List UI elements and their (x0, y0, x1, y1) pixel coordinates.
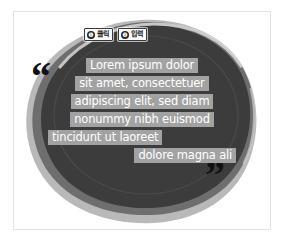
step-number-icon-1: ❶ (87, 31, 95, 39)
callout-badge-1[interactable]: ❶ 클릭 (84, 28, 113, 41)
quote-line: nonummy nibh euismod (70, 112, 214, 127)
quote-line: Lorem ipsum dolor (86, 58, 198, 73)
quote-text-block: Lorem ipsum dolor sit amet, consectetuer… (48, 58, 236, 163)
quote-line: adipiscing elit, sed diam (71, 94, 214, 109)
callout-badge-2[interactable]: ❷ 입력 (118, 28, 147, 41)
quote-line: dolore magna ali (134, 148, 236, 163)
callout-badge-row: ❶ 클릭 ❷ 입력 (84, 28, 147, 41)
screenshot-canvas: “ ” ❶ 클릭 ❷ 입력 Lorem ipsum dolor sit amet… (0, 0, 284, 242)
callout-badge-2-label: 입력 (131, 30, 143, 39)
quote-line: tincidunt ut laoreet (48, 130, 162, 145)
step-number-icon-2: ❷ (121, 31, 129, 39)
callout-badge-1-label: 클릭 (97, 30, 109, 39)
quote-line: sit amet, consectetuer (75, 76, 208, 91)
